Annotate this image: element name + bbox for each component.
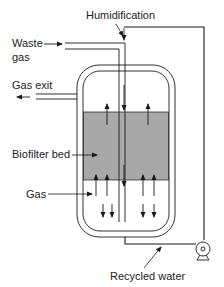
gas-exit-pipe [36,94,77,99]
label-recycled-water: Recycled water [110,270,186,282]
label-gas: Gas [26,188,47,200]
label-waste-gas-1: Waste [12,37,43,49]
label-humidification: Humidification [86,9,155,21]
recycled-water-pipe [125,237,196,244]
biofilter-bed [84,112,169,180]
label-biofilter-bed: Biofilter bed [12,148,70,160]
biofilter-diagram: Humidification Waste gas Gas exit Biofil… [0,0,224,287]
label-gas-exit: Gas exit [12,79,52,91]
recycled-water-pointer [144,247,161,268]
humidification-pointer [116,24,123,36]
label-waste-gas-2: gas [12,51,30,63]
pump-icon [196,242,210,260]
